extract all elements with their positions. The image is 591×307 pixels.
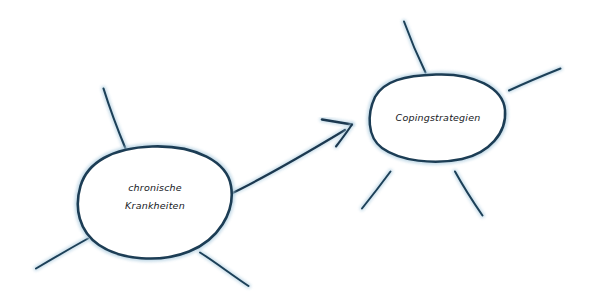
mind-map-svg: chronische Krankheiten Copingstrategien: [0, 0, 591, 307]
canvas-background: [0, 0, 591, 307]
node-chronische-krankheiten[interactable]: chronische Krankheiten: [78, 146, 232, 258]
node-label-line1: chronische: [128, 182, 182, 193]
node-label-line1: Copingstrategien: [396, 112, 481, 123]
node-copingstrategien[interactable]: Copingstrategien: [370, 74, 505, 161]
diagram-canvas: chronische Krankheiten Copingstrategien: [0, 0, 591, 307]
node-label-line2: Krankheiten: [125, 200, 185, 211]
